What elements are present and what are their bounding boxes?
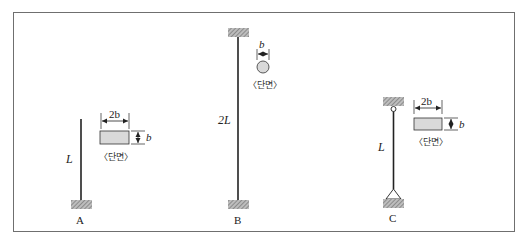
column-b-diameter-label: b bbox=[259, 38, 265, 50]
column-c-width-label: 2b bbox=[421, 95, 433, 107]
fixed-support-icon bbox=[228, 28, 249, 37]
fixed-support-icon bbox=[383, 199, 404, 208]
pin-hinge-icon bbox=[391, 107, 396, 112]
columns-diagram: L A 2b b 〈단면〉 2L B b 〈단면〉 bbox=[0, 0, 528, 244]
fixed-support-icon bbox=[383, 97, 404, 106]
column-a-height-label: b bbox=[146, 131, 152, 143]
rectangle-section-icon bbox=[100, 131, 129, 144]
column-b-label: B bbox=[234, 214, 241, 226]
column-c-section-caption: 〈단면〉 bbox=[414, 137, 448, 147]
pin-support-icon bbox=[386, 189, 401, 199]
column-b-section-caption: 〈단면〉 bbox=[248, 80, 282, 90]
fixed-support-icon bbox=[228, 200, 249, 209]
column-b-section: b 〈단면〉 bbox=[248, 38, 282, 90]
column-c-height-label: b bbox=[459, 118, 465, 130]
rectangle-section-icon bbox=[414, 118, 442, 130]
column-c-section: 2b b 〈단면〉 bbox=[414, 95, 465, 147]
column-b-length-label: 2L bbox=[218, 113, 231, 127]
column-a-label: A bbox=[76, 214, 84, 226]
column-a-length-label: L bbox=[65, 152, 73, 166]
column-a-width-label: 2b bbox=[109, 108, 121, 120]
column-c-length-label: L bbox=[377, 140, 385, 154]
column-c: L C 2b b 〈단면〉 bbox=[377, 95, 465, 224]
column-a-section: 2b b 〈단면〉 bbox=[99, 108, 152, 162]
column-a-section-caption: 〈단면〉 bbox=[99, 152, 133, 162]
fixed-support-icon bbox=[71, 200, 92, 209]
circle-section-icon bbox=[257, 61, 269, 73]
column-b: 2L B b 〈단면〉 bbox=[218, 28, 282, 226]
column-c-label: C bbox=[389, 212, 396, 224]
column-a: L A 2b b 〈단면〉 bbox=[65, 108, 152, 226]
